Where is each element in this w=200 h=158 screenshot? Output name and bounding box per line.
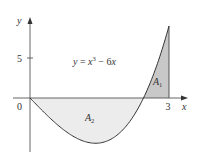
origin-label: 0 (17, 101, 22, 112)
region-a1-shading (143, 26, 169, 98)
equation-label: y = x3 − 6x (72, 55, 116, 67)
y-tick-label-5: 5 (17, 53, 22, 64)
x-axis-arrow-icon (181, 96, 188, 101)
x-axis-label: x (181, 101, 187, 112)
y-axis-arrow-icon (28, 17, 33, 24)
y-axis-label: y (16, 15, 22, 26)
x-tick-label-3: 3 (166, 101, 171, 112)
area-between-curve-diagram: y 5 0 3 x y = x3 − 6x A1 A2 (0, 0, 200, 158)
